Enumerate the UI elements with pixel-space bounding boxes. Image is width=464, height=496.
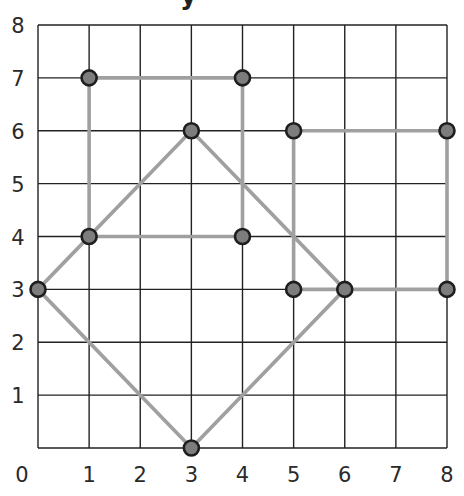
point-marker [286,282,301,297]
x-tick-label: 3 [185,463,198,487]
y-tick-label: 6 [11,120,24,144]
point-marker [184,441,199,456]
x-tick-label: 4 [236,463,249,487]
x-tick-label: 6 [338,463,351,487]
y-tick-label: 8 [11,14,24,38]
rectangle-right [294,131,447,290]
title-fragment: y [180,0,197,10]
x-axis-labels: 012345678 [15,463,453,487]
point-marker [82,229,97,244]
y-tick-label: 7 [11,67,24,91]
x-tick-label: 5 [287,463,300,487]
point-marker [31,282,46,297]
point-marker [82,70,97,85]
x-tick-label: 8 [440,463,453,487]
y-tick-label: 2 [11,331,24,355]
point-marker [235,229,250,244]
point-marker [235,70,250,85]
y-tick-label: 1 [11,384,24,408]
point-marker [286,123,301,138]
y-tick-label: 5 [11,173,24,197]
point-marker [440,123,455,138]
x-tick-label: 1 [82,463,95,487]
point-marker [184,123,199,138]
y-tick-label: 4 [11,226,24,250]
point-marker [337,282,352,297]
x-tick-label: 2 [134,463,147,487]
y-tick-label: 3 [11,278,24,302]
x-tick-label: 7 [389,463,402,487]
x-tick-label: 0 [15,463,28,487]
coordinate-grid-diagram: y 12345678 012345678 [0,0,464,496]
y-axis-labels: 12345678 [11,14,24,408]
point-marker [440,282,455,297]
